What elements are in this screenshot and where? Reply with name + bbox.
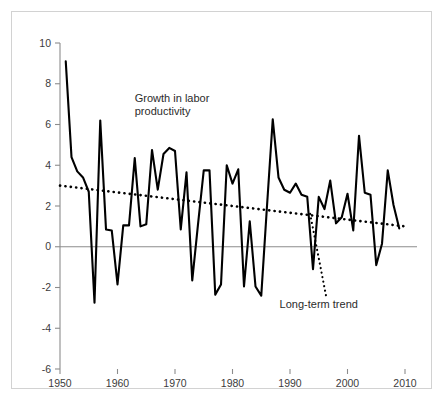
y-tick-label: 6 xyxy=(45,118,51,130)
productivity-line-chart: 1950196019701980199020002010 -6-4-202468… xyxy=(0,0,445,410)
labor-productivity-line xyxy=(66,61,400,302)
x-tick-label: 1950 xyxy=(48,377,72,389)
x-tick-label: 1960 xyxy=(106,377,130,389)
y-tick-label: 2 xyxy=(45,200,51,212)
x-tick-label: 1980 xyxy=(221,377,245,389)
chart-annotations: Growth in labor productivity Long-term t… xyxy=(135,92,358,310)
y-tick-label: 10 xyxy=(39,37,51,49)
y-tick-label: -6 xyxy=(42,363,51,375)
axes-layer xyxy=(55,43,405,374)
x-tick-label: 1970 xyxy=(163,377,187,389)
y-tick-label: 8 xyxy=(45,77,51,89)
x-tick-label: 2000 xyxy=(336,377,360,389)
growth-annotation-line1: Growth in labor xyxy=(135,92,210,104)
y-tick-label: 0 xyxy=(45,240,51,252)
growth-annotation-line2: productivity xyxy=(135,105,191,117)
chart-figure: 1950196019701980199020002010 -6-4-202468… xyxy=(0,0,445,410)
y-tick-label: -4 xyxy=(42,322,51,334)
y-tick-label: -2 xyxy=(42,281,51,293)
x-tick-label: 1990 xyxy=(278,377,302,389)
y-axis-tick-labels: -6-4-20246810 xyxy=(39,37,51,375)
x-tick-label: 2010 xyxy=(393,377,417,389)
productivity-series-path xyxy=(66,61,400,302)
x-axis-tick-labels: 1950196019701980199020002010 xyxy=(48,377,417,389)
y-tick-label: 4 xyxy=(45,159,51,171)
trend-annotation: Long-term trend xyxy=(280,298,358,310)
